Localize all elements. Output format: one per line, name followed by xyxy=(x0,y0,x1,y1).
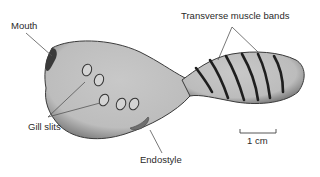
label-transverse-muscle-bands: Transverse muscle bands xyxy=(181,11,289,21)
label-endostyle: Endostyle xyxy=(140,155,182,165)
scale-bar-label: 1 cm xyxy=(247,136,268,146)
scale-bar xyxy=(240,129,276,133)
diagram-canvas: Mouth Transverse muscle bands Gill slits… xyxy=(0,0,320,177)
body-trunk xyxy=(45,41,193,139)
label-mouth: Mouth xyxy=(11,21,37,31)
organism-illustration xyxy=(0,0,320,177)
label-gill-slits: Gill slits xyxy=(28,122,61,132)
